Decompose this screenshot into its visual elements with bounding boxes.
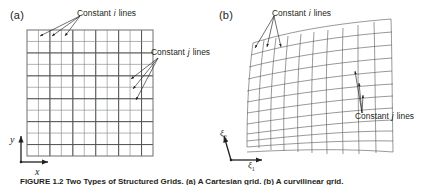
grid-a-vertical-lines <box>38 30 141 156</box>
panel-b-grid-graphic <box>0 0 437 185</box>
annotation-index-letter: j <box>187 47 190 57</box>
annotation-prefix: Constant <box>272 8 306 18</box>
axis-a-origin-dot <box>20 161 23 164</box>
grid-b-constant-i-lines <box>247 19 393 154</box>
annotation-suffix: lines <box>314 8 331 18</box>
axis-label-xi-subscript: 2 <box>224 134 227 140</box>
axis-b-origin-dot <box>230 159 233 162</box>
axis-label-y: y <box>10 134 14 145</box>
panel-a-label: (a) <box>10 9 24 21</box>
annotation-prefix: Constant <box>355 111 389 121</box>
annotation-constant-j-lines-b: Constant j lines <box>355 111 414 121</box>
figure-container: (a) <box>0 0 437 185</box>
leader-arrows-a-i <box>40 16 80 36</box>
grid-a-horizontal-lines <box>27 41 153 144</box>
annotation-prefix: Constant <box>151 47 185 57</box>
annotation-suffix: lines <box>193 47 210 57</box>
annotation-index-letter: i <box>308 8 311 18</box>
grid-a-horizontal-lines-major <box>27 53 153 145</box>
figure-caption: FIGURE 1.2 Two Types of Structured Grids… <box>20 177 430 185</box>
axis-label-xi-1: ξ1 <box>248 160 255 172</box>
annotation-suffix: lines <box>397 111 414 121</box>
grid-a-border <box>27 30 153 156</box>
axis-label-xi-2: ξ2 <box>220 128 227 140</box>
panel-b-label: (b) <box>219 9 233 21</box>
axis-a-arrows <box>21 136 48 162</box>
axis-b-arrows <box>224 136 262 160</box>
annotation-index-letter: j <box>391 111 394 121</box>
axis-label-x: x <box>35 166 39 177</box>
axis-label-xi-subscript: 1 <box>252 166 255 172</box>
grid-a-vertical-lines-major <box>50 30 142 156</box>
annotation-constant-i-lines-b: Constant i lines <box>272 8 331 18</box>
leader-arrows-b-i <box>255 16 281 48</box>
annotation-constant-j-lines-a: Constant j lines <box>151 47 210 57</box>
leader-arrows-a-j <box>131 58 158 100</box>
panel-a-grid-graphic <box>0 0 437 185</box>
annotation-prefix: Constant <box>77 8 111 18</box>
annotation-constant-i-lines-a: Constant i lines <box>77 8 136 18</box>
leader-arrows-b-j <box>355 71 363 113</box>
annotation-suffix: lines <box>119 8 136 18</box>
annotation-index-letter: i <box>113 8 116 18</box>
grid-b-constant-j-lines <box>247 19 393 152</box>
